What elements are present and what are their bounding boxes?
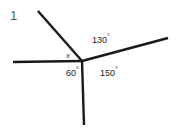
angle-value-130: 130 <box>92 35 107 45</box>
angle-label-150: 150° <box>100 66 118 78</box>
degree-symbol-x: ° <box>70 48 73 55</box>
degree-symbol-130: ° <box>107 33 110 40</box>
degree-symbol-150: ° <box>115 66 118 73</box>
angle-label-130: 130° <box>92 33 110 45</box>
upper-left-ray <box>38 11 82 61</box>
angle-value-60: 60 <box>66 68 76 78</box>
angle-value-150: 150 <box>100 68 115 78</box>
degree-symbol-60: ° <box>76 66 79 73</box>
angle-label-x: x° <box>66 48 73 60</box>
geometry-figure-page: 1 x° 130° 60° 150° <box>0 0 179 133</box>
angle-label-60: 60° <box>66 66 79 78</box>
left-horizontal-ray <box>13 61 82 62</box>
ray-group <box>13 11 168 125</box>
bottom-ray <box>82 61 84 125</box>
angles-at-a-point-diagram <box>0 0 179 133</box>
